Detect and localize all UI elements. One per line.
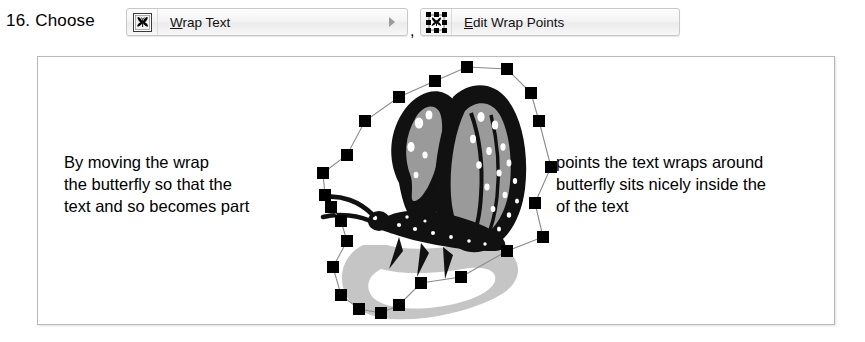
step-number-label: 16. Choose [6, 11, 95, 31]
accel-letter-e: E [464, 15, 473, 30]
menu-separator-comma: , [410, 22, 414, 40]
content-frame: By moving the wrap the butterfly so that… [37, 56, 835, 325]
wrapped-text-left: By moving the wrap the butterfly so that… [64, 151, 324, 217]
butterfly-graphic [323, 85, 526, 279]
label-rest-edit-wrap-points: dit Wrap Points [473, 15, 564, 30]
menu-item-edit-wrap-points[interactable]: Edit Wrap Points [420, 8, 680, 36]
step-line: 16. Choose Wrap Text , [0, 0, 865, 46]
label-rest-wrap-text: rap Text [183, 15, 231, 30]
wrapped-text-right: points the text wraps around butterfly s… [556, 151, 826, 217]
edit-wrap-points-icon [426, 12, 447, 33]
wrap-text-icon [133, 13, 152, 32]
accel-letter-w: W [170, 15, 183, 30]
menu-item-wrap-text[interactable]: Wrap Text [126, 8, 408, 36]
menu-item-wrap-text-label: Wrap Text [170, 15, 230, 30]
wrap-text-icon-cell [127, 9, 158, 35]
butterfly-image[interactable] [303, 55, 573, 327]
edit-wrap-points-icon-cell [421, 9, 452, 35]
menu-item-edit-wrap-points-label: Edit Wrap Points [464, 15, 564, 30]
submenu-chevron-right-icon[interactable] [389, 17, 395, 27]
